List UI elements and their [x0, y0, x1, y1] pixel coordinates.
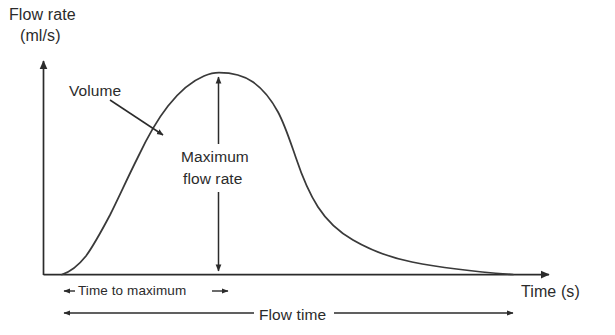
maximum-flow-rate-label-line1: Maximum — [181, 148, 249, 166]
y-axis-label-units: (ml/s) — [20, 27, 61, 45]
x-axis-label: Time (s) — [521, 283, 580, 301]
flow-time-label: Flow time — [259, 306, 326, 324]
maximum-flow-rate-label-line2: flow rate — [183, 170, 242, 188]
volume-annotation-arrow — [110, 100, 163, 135]
figure-canvas: Flow rate (ml/s) Time (s) Volume Maximum… — [0, 0, 615, 335]
flow-rate-curve — [62, 73, 513, 275]
y-axis-label-primary: Flow rate — [9, 6, 76, 24]
volume-annotation-label: Volume — [69, 82, 121, 100]
time-to-maximum-label: Time to maximum — [78, 283, 186, 299]
